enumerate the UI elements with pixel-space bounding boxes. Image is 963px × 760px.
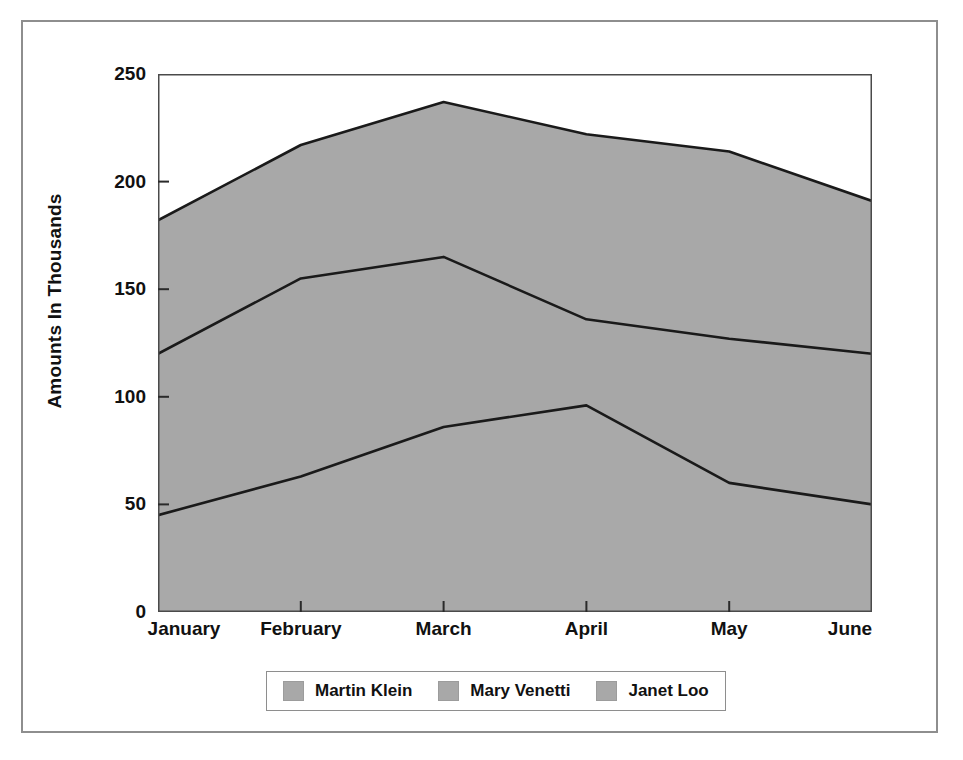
stacked-areas-group bbox=[158, 102, 872, 612]
legend-entry[interactable]: Martin Klein bbox=[283, 681, 412, 701]
legend-swatch-icon bbox=[438, 681, 459, 701]
chart-figure: Amounts In Thousands 250200150100500 Jan… bbox=[0, 0, 963, 760]
x-tick-label: April bbox=[565, 618, 608, 640]
y-axis-tick-labels: 250200150100500 bbox=[78, 74, 146, 612]
y-tick-label: 150 bbox=[88, 278, 146, 300]
plot-svg bbox=[158, 74, 872, 612]
x-tick-label: June bbox=[828, 618, 872, 640]
legend-label: Mary Venetti bbox=[470, 681, 570, 701]
y-tick-label: 50 bbox=[88, 493, 146, 515]
x-axis-tick-labels: JanuaryFebruaryMarchAprilMayJune bbox=[158, 618, 872, 648]
y-axis-title: Amounts In Thousands bbox=[44, 186, 66, 416]
legend-label: Janet Loo bbox=[628, 681, 708, 701]
legend-swatch-icon bbox=[283, 681, 304, 701]
chart-legend: Martin KleinMary VenettiJanet Loo bbox=[266, 671, 726, 711]
y-tick-label: 250 bbox=[88, 63, 146, 85]
plot-area bbox=[158, 74, 872, 612]
x-tick-label: January bbox=[148, 618, 221, 640]
x-tick-label: March bbox=[416, 618, 472, 640]
y-tick-label: 100 bbox=[88, 386, 146, 408]
y-tick-label: 200 bbox=[88, 171, 146, 193]
legend-entry[interactable]: Mary Venetti bbox=[438, 681, 570, 701]
legend-label: Martin Klein bbox=[315, 681, 412, 701]
x-tick-label: May bbox=[711, 618, 748, 640]
legend-swatch-icon bbox=[596, 681, 617, 701]
y-tick-label: 0 bbox=[88, 601, 146, 623]
x-tick-label: February bbox=[260, 618, 341, 640]
legend-entry[interactable]: Janet Loo bbox=[596, 681, 708, 701]
